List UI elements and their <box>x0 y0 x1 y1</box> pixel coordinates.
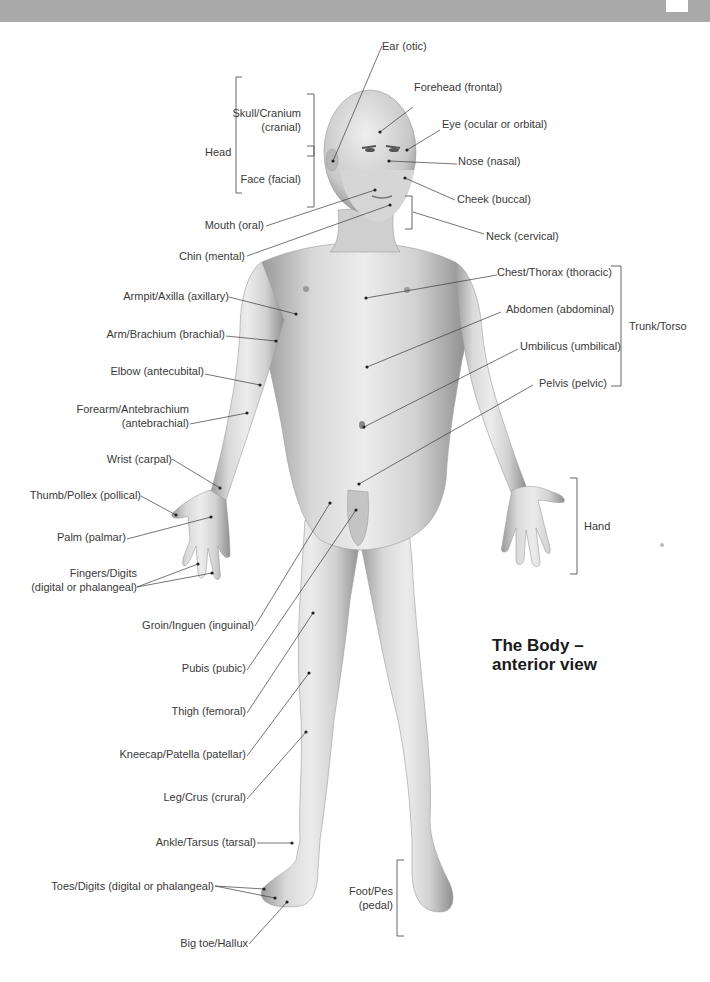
bracket-foot <box>397 860 404 936</box>
label-chin: Chin (mental) <box>179 249 245 263</box>
bracket-neck <box>405 196 412 229</box>
label-thumb: Thumb/Pollex (pollical) <box>30 488 141 502</box>
label-chest: Chest/Thorax (thoracic) <box>497 265 612 279</box>
bracket-trunk <box>611 266 621 386</box>
label-eye: Eye (ocular or orbital) <box>442 117 547 131</box>
label-kneecap: Kneecap/Patella (patellar) <box>119 747 246 761</box>
label-elbow: Elbow (antecubital) <box>110 364 204 378</box>
label-groin: Groin/Inguen (inguinal) <box>142 618 254 632</box>
label-neck: Neck (cervical) <box>486 229 559 243</box>
label-nose: Nose (nasal) <box>458 154 520 168</box>
label-forehead: Forehead (frontal) <box>414 80 502 94</box>
label-thigh: Thigh (femoral) <box>171 704 246 718</box>
fingers-label-line1: Fingers/Digits <box>31 566 137 580</box>
label-forearm: Forearm/Antebrachium (antebrachial) <box>77 402 190 430</box>
group-label-trunk: Trunk/Torso <box>629 319 687 333</box>
foot-label-line2: (pedal) <box>349 898 393 912</box>
foot-label-line1: Foot/Pes <box>349 884 393 898</box>
bracket-face <box>307 146 314 207</box>
label-armpit: Armpit/Axilla (axillary) <box>123 289 229 303</box>
figure-silhouette <box>172 90 565 912</box>
group-label-foot: Foot/Pes (pedal) <box>349 884 393 912</box>
forearm-label-line1: Forearm/Antebrachium <box>77 402 190 416</box>
skull-label-line1: Skull/Cranium <box>233 106 301 120</box>
label-cheek: Cheek (buccal) <box>457 192 531 206</box>
bracket-skull <box>307 94 314 156</box>
label-skull: Skull/Cranium (cranial) <box>233 106 301 134</box>
label-arm: Arm/Brachium (brachial) <box>106 327 225 341</box>
group-label-head: Head <box>205 145 231 159</box>
label-wrist: Wrist (carpal) <box>107 452 172 466</box>
label-pubis: Pubis (pubic) <box>182 661 246 675</box>
title-line2: anterior view <box>492 655 597 674</box>
fingers-label-line2: (digital or phalangeal) <box>31 580 137 594</box>
label-pelvis: Pelvis (pelvic) <box>539 376 607 390</box>
label-toes: Toes/Digits (digital or phalangeal) <box>51 879 214 893</box>
title-line1: The Body – <box>492 636 597 655</box>
label-big-toe: Big toe/Hallux <box>180 936 248 950</box>
label-umbilicus: Umbilicus (umbilical) <box>520 339 621 353</box>
label-ankle: Ankle/Tarsus (tarsal) <box>156 835 256 849</box>
group-label-hand: Hand <box>584 519 610 533</box>
figure-title: The Body – anterior view <box>492 636 597 674</box>
skull-label-line2: (cranial) <box>233 120 301 134</box>
label-leg: Leg/Crus (crural) <box>163 790 246 804</box>
stray-dot <box>660 543 664 547</box>
forearm-label-line2: (antebrachial) <box>77 416 190 430</box>
label-ear: Ear (otic) <box>382 39 427 53</box>
label-mouth: Mouth (oral) <box>205 218 264 232</box>
label-fingers: Fingers/Digits (digital or phalangeal) <box>31 566 137 594</box>
label-abdomen: Abdomen (abdominal) <box>506 302 614 316</box>
bracket-hand <box>570 478 577 574</box>
label-palm: Palm (palmar) <box>57 530 126 544</box>
label-face: Face (facial) <box>240 172 301 186</box>
